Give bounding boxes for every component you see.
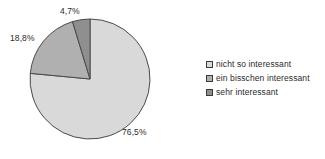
slice-value-label-ein-bisschen-interessant: 18,8% bbox=[10, 33, 35, 43]
legend-item-label: sehr interessant bbox=[216, 87, 278, 97]
chart-legend: nicht so interessant ein bisschen intere… bbox=[206, 59, 310, 97]
slice-value-label-nicht-so-interessant: 76,5% bbox=[122, 127, 147, 137]
legend-item-sehr-interessant: sehr interessant bbox=[206, 87, 310, 97]
legend-item-ein-bisschen-interessant: ein bisschen interessant bbox=[206, 73, 310, 83]
legend-swatch-icon bbox=[206, 89, 213, 96]
legend-item-nicht-so-interessant: nicht so interessant bbox=[206, 59, 310, 69]
slice-value-label-sehr-interessant: 4,7% bbox=[60, 6, 80, 16]
pie-chart-figure: 76,5% 18,8% 4,7% nicht so interessant ei… bbox=[0, 0, 325, 159]
legend-item-label: ein bisschen interessant bbox=[216, 73, 310, 83]
legend-swatch-icon bbox=[206, 75, 213, 82]
pie-chart-graphic bbox=[0, 0, 200, 159]
legend-item-label: nicht so interessant bbox=[216, 59, 291, 69]
legend-swatch-icon bbox=[206, 61, 213, 68]
